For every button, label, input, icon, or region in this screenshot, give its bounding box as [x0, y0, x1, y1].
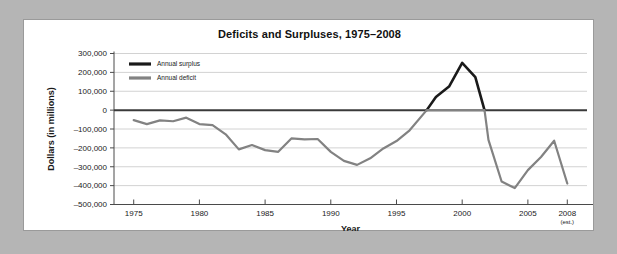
figure-background: Deficits and Surpluses, 1975–2008 300,00…: [0, 0, 617, 254]
x-tick-label: 1995: [388, 209, 406, 218]
chart-legend: Annual surplusAnnual deficit: [129, 60, 201, 81]
y-tick-label: 100,000: [78, 87, 107, 96]
y-tick-label: –500,000: [74, 200, 108, 209]
x-tick-label: 2005: [519, 209, 537, 218]
x-tick-label: 2000: [453, 209, 471, 218]
x-tick-label: 1990: [322, 209, 340, 218]
x-tick-label: 1985: [256, 209, 274, 218]
legend-label: Annual deficit: [157, 74, 196, 81]
y-axis-title: Dollars (in millions): [46, 87, 56, 171]
y-tick-label: 0: [103, 106, 108, 115]
x-tick-label: 1975: [125, 209, 143, 218]
y-tick-label: 200,000: [78, 68, 107, 77]
y-axis-tick-labels: 300,000200,000100,0000–100,000–200,000–3…: [74, 49, 108, 209]
data-series-group: [134, 63, 568, 188]
series-line: [134, 110, 568, 188]
x-tick-label: 2008: [558, 209, 576, 218]
x-axis-tick-labels: 19751980198519901995200020052008(est.): [125, 209, 577, 225]
x-axis-ticks: [134, 200, 568, 205]
y-axis-ticks: [110, 54, 114, 205]
legend-label: Annual surplus: [157, 60, 201, 68]
y-tick-label: –400,000: [74, 181, 108, 190]
chart-card: Deficits and Surpluses, 1975–2008 300,00…: [23, 19, 594, 231]
y-tick-label: –200,000: [74, 144, 108, 153]
x-axis-title: Year: [341, 224, 361, 232]
y-tick-label: –300,000: [74, 163, 108, 172]
deficits-surpluses-line-chart: 300,000200,000100,0000–100,000–200,000–3…: [24, 20, 595, 231]
x-tick-sublabel: (est.): [560, 219, 574, 225]
y-tick-label: 300,000: [78, 49, 107, 58]
series-line: [427, 63, 485, 110]
y-tick-label: –100,000: [74, 125, 108, 134]
x-tick-label: 1980: [191, 209, 209, 218]
